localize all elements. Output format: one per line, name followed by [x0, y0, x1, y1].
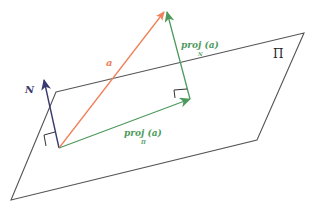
label-proj-normal: proj (a) [181, 40, 219, 50]
projection-diagram: a N Π proj (a) N proj (a) Π [0, 0, 322, 212]
plane-pi [11, 33, 304, 200]
label-proj-normal-sub: N [197, 51, 203, 57]
label-proj-plane: proj (a) [124, 128, 162, 138]
label-n: N [24, 84, 35, 95]
proj-normal-vector [167, 12, 190, 99]
label-plane: Π [273, 47, 283, 61]
right-angle-marker-origin [44, 132, 55, 146]
right-angle-marker-proj [174, 89, 187, 98]
label-proj-plane-sub: Π [140, 139, 146, 145]
label-a: a [106, 57, 112, 68]
